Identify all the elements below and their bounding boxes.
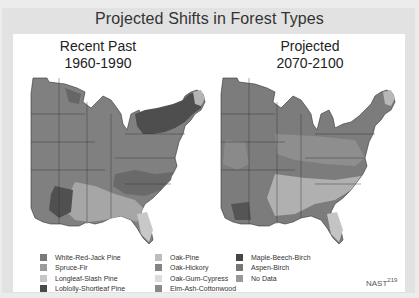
projected-forest-map <box>215 74 405 246</box>
legend-label: Loblolly-Shortleaf Pine <box>55 285 125 292</box>
legend-label: Maple-Beech-Birch <box>251 254 311 261</box>
swatch-longleaf-slash-pine <box>40 275 47 282</box>
source-page: 219 <box>387 277 397 283</box>
right-map-period: 2070-2100 <box>250 55 370 72</box>
legend-label: Spruce-Fir <box>55 264 88 271</box>
source-name: NAST <box>366 279 387 288</box>
legend-column-3: Maple-Beech-Birch Aspen-Birch No Data <box>236 252 311 284</box>
recent-past-forest-map <box>25 74 215 246</box>
swatch-spruce-fir <box>40 264 47 271</box>
swatch-oak-hickory <box>155 264 162 271</box>
legend-item: No Data <box>236 273 311 284</box>
left-map-period: 1960-1990 <box>38 55 158 72</box>
slide-title: Projected Shifts in Forest Types <box>0 10 419 28</box>
legend-label: Oak-Pine <box>170 254 199 261</box>
source-label: NAST219 <box>366 277 397 288</box>
legend-item: Oak-Hickory <box>155 263 236 274</box>
legend-label: White-Red-Jack Pine <box>55 254 121 261</box>
caption-strip <box>0 293 419 298</box>
legend-item: Oak-Pine <box>155 252 236 263</box>
legend-column-1: White-Red-Jack Pine Spruce-Fir Longleaf-… <box>40 252 125 294</box>
legend-label: No Data <box>251 275 277 282</box>
legend-label: Elm-Ash-Cottonwood <box>170 285 236 292</box>
left-map-label: Recent Past <box>38 38 158 55</box>
swatch-no-data <box>236 275 243 282</box>
legend-label: Longleaf-Slash Pine <box>55 275 118 282</box>
legend-label: Oak-Gum-Cypress <box>170 275 228 282</box>
legend-label: Oak-Hickory <box>170 264 209 271</box>
legend-item: Spruce-Fir <box>40 263 125 274</box>
swatch-aspen-birch <box>236 264 243 271</box>
legend-item: White-Red-Jack Pine <box>40 252 125 263</box>
swatch-oak-pine <box>155 254 162 261</box>
left-map-heading: Recent Past 1960-1990 <box>38 38 158 72</box>
legend-item: Longleaf-Slash Pine <box>40 273 125 284</box>
right-map-heading: Projected 2070-2100 <box>250 38 370 72</box>
legend-item: Maple-Beech-Birch <box>236 252 311 263</box>
swatch-maple-beech-birch <box>236 254 243 261</box>
swatch-white-red-jack-pine <box>40 254 47 261</box>
swatch-elm-ash-cottonwood <box>155 285 162 292</box>
legend-label: Aspen-Birch <box>251 264 289 271</box>
swatch-oak-gum-cypress <box>155 275 162 282</box>
legend-column-2: Oak-Pine Oak-Hickory Oak-Gum-Cypress Elm… <box>155 252 236 294</box>
swatch-loblolly-shortleaf-pine <box>40 285 47 292</box>
legend-item: Aspen-Birch <box>236 263 311 274</box>
legend-item: Oak-Gum-Cypress <box>155 273 236 284</box>
right-map-label: Projected <box>250 38 370 55</box>
